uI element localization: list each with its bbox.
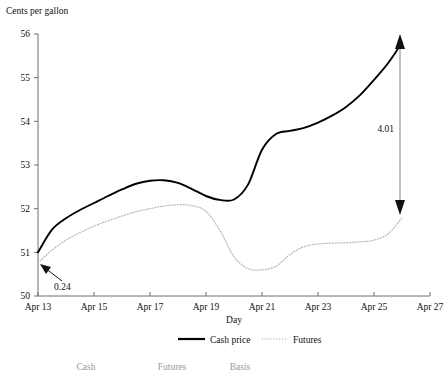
basis-end-arrowhead-top (395, 34, 405, 49)
y-tick-label: 54 (21, 117, 31, 127)
basis-start-label: 0.24 (54, 282, 71, 292)
legend-label-cash-price: Cash price (210, 335, 250, 345)
x-tick-label: Apr 15 (81, 302, 108, 312)
y-axis: 50515253545556 (21, 29, 39, 301)
x-tick-label: Apr 27 (417, 302, 444, 312)
x-tick-label: Apr 21 (249, 302, 276, 312)
x-axis: Apr 13Apr 15Apr 17Apr 19Apr 21Apr 23Apr … (25, 292, 444, 325)
x-tick-group: Apr 13Apr 15Apr 17Apr 19Apr 21Apr 23Apr … (25, 292, 444, 312)
annotation-basis-start: 0.24 (40, 264, 71, 292)
x-tick-label: Apr 25 (361, 302, 388, 312)
basis-end-arrowhead-bottom (395, 200, 405, 215)
y-tick-label: 53 (21, 160, 31, 170)
footer-table-header: Cash Futures Basis (77, 362, 251, 372)
y-tick-label: 55 (21, 73, 31, 83)
y-tick-label: 51 (21, 248, 31, 258)
x-tick-label: Apr 13 (25, 302, 52, 312)
x-tick-label: Apr 19 (193, 302, 220, 312)
footer-column-futures: Futures (158, 362, 187, 372)
footer-column-basis: Basis (230, 362, 251, 372)
series-line-cash (38, 43, 402, 253)
y-tick-label: 52 (21, 204, 31, 214)
series-line-futures (38, 205, 402, 270)
legend: Cash price Futures (178, 335, 322, 345)
basis-start-arrowhead (40, 264, 51, 274)
basis-end-label: 4.01 (377, 124, 394, 134)
y-tick-label: 56 (21, 29, 31, 39)
y-tick-label: 50 (21, 291, 31, 301)
annotation-basis-end: 4.01 (377, 34, 405, 215)
y-axis-title: Cents per gallon (6, 6, 69, 16)
y-tick-group: 50515253545556 (21, 29, 39, 301)
line-chart: Cents per gallon 50515253545556 Apr 13Ap… (0, 0, 446, 372)
footer-column-cash: Cash (77, 362, 96, 372)
x-axis-title: Day (226, 315, 242, 325)
legend-label-futures: Futures (293, 335, 322, 345)
chart-container: Cents per gallon 50515253545556 Apr 13Ap… (0, 0, 446, 372)
x-tick-label: Apr 23 (305, 302, 332, 312)
x-tick-label: Apr 17 (137, 302, 164, 312)
